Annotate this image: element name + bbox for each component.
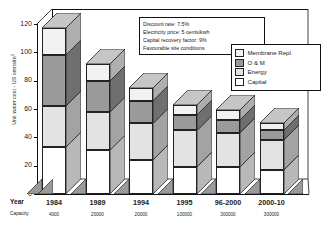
chart-legend: Membrane Repl.O & MEnergyCapital [231,44,321,91]
bar-segment-energy [129,123,153,160]
year-row-header: Year [10,198,24,205]
bar-segment-energy [260,140,284,170]
bar-segment-capital [260,170,284,194]
x-axis-label: 2000-10 [252,198,292,207]
legend-label: Energy [248,69,267,75]
bar-top-face [42,13,81,28]
bar-segment-membrane-repl [86,64,110,81]
annotation-line: Capital recovery factor: 9% [143,36,261,44]
legend-item: Capital [235,78,317,86]
bar-segment-energy [173,130,197,167]
bar-segment-capital [173,167,197,194]
capacity-label: 4000 [36,212,72,217]
bar-segment-membrane-repl [42,28,66,55]
origin-wedge [38,179,53,194]
bar-segment-capital [216,167,240,194]
x-axis-label: 96-2000 [208,198,248,207]
legend-item: Energy [235,68,317,76]
bar-segment-energy [86,112,110,150]
x-axis-label: 1995 [165,198,205,207]
bar-group [42,0,66,194]
bar-segment-o-m [129,101,153,124]
bar-segment-o-m [260,130,284,140]
legend-label: O & M [248,60,265,66]
legend-swatch [235,78,244,86]
x-axis-label: 1989 [78,198,118,207]
bar-segment-membrane-repl [216,110,240,120]
capacity-label: 100000 [167,212,203,217]
bar-segment-membrane-repl [129,88,153,101]
floor-wedge [158,179,173,194]
bar-group [86,0,110,194]
capacity-label: 20000 [123,212,159,217]
bar-segment-o-m [173,115,197,131]
annotation-line: Electricity price: 5 cents/kwh [143,28,261,36]
capacity-label: 300000 [210,212,246,217]
x-axis-label: 1984 [34,198,74,207]
bar-segment-membrane-repl [173,105,197,115]
bar-top-face [260,108,299,123]
bar-segment-o-m [86,81,110,112]
legend-swatch [235,68,244,76]
floor-wedge [114,179,129,194]
capacity-label: 20000 [80,212,116,217]
bar-segment-capital [129,160,153,194]
bar-segment-membrane-repl [260,123,284,130]
floor-wedge [201,179,216,194]
legend-item: Membrane Repl. [235,49,317,57]
legend-label: Membrane Repl. [248,50,293,56]
bar-top-face [129,73,168,88]
bar-segment-capital [86,150,110,194]
legend-swatch [235,49,244,57]
bar-segment-energy [216,133,240,167]
legend-swatch [235,59,244,67]
bar-top-face [86,49,125,64]
floor-wedge [288,179,303,194]
floor-wedge [245,179,260,194]
x-axis-label: 1994 [121,198,161,207]
floor-wedge [71,179,86,194]
bar-segment-o-m [216,120,240,133]
bar-top-face [216,95,255,110]
capacity-label: 300000 [254,212,290,217]
annotation-line: Discount rate: 7.5% [143,20,261,28]
legend-item: O & M [235,59,317,67]
bar-segment-o-m [42,55,66,106]
capacity-row-header: Capacity [10,211,29,216]
bar-top-face [173,90,212,105]
bar-segment-energy [42,106,66,147]
legend-label: Capital [248,79,267,85]
